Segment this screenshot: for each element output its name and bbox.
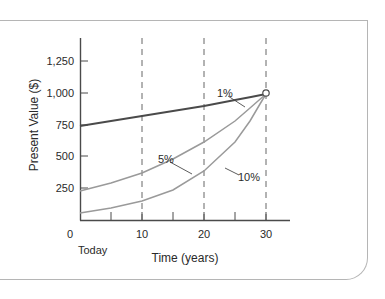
- present-value-chart: 1,250 1,000 750 500 250 0 10 20 30 Today…: [0, 0, 385, 299]
- y-tick-750: 750: [56, 119, 74, 131]
- end-point-marker: [263, 90, 269, 96]
- label-5pct: 5%: [158, 153, 174, 165]
- y-tick-500: 500: [56, 150, 74, 162]
- leader-lines: [170, 96, 245, 175]
- y-axis-title: Present Value ($): [27, 79, 41, 172]
- y-tick-1000: 1,000: [46, 87, 74, 99]
- x-tick-0: 0: [67, 228, 73, 240]
- axes: [80, 38, 290, 221]
- x-tick-20: 20: [198, 228, 210, 240]
- x-ticks: [111, 212, 266, 220]
- y-tick-1250: 1,250: [46, 55, 74, 67]
- label-10pct: 10%: [238, 171, 260, 183]
- x-tick-30: 30: [260, 228, 272, 240]
- vertical-gridlines: [142, 38, 266, 220]
- label-1pct: 1%: [217, 87, 233, 99]
- x-axis-title: Time (years): [152, 251, 219, 265]
- x-tick-10: 10: [136, 228, 148, 240]
- curve-1pct: [80, 94, 266, 126]
- today-label: Today: [78, 244, 108, 256]
- y-tick-250: 250: [56, 182, 74, 194]
